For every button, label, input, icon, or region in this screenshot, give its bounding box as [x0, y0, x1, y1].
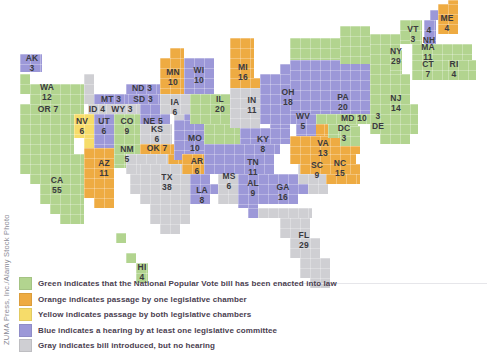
legend-label: Green indicates that the National Popula… [38, 279, 337, 288]
state-label-sc: SC9 [311, 160, 323, 180]
state-label-ks: KS6 [151, 124, 163, 144]
state-label-ga: GA16 [276, 182, 289, 202]
legend: Green indicates that the National Popula… [19, 276, 349, 354]
legend-label: Orange indicates passage by one legislat… [38, 295, 247, 304]
state-label-id: ID 4 [89, 104, 105, 114]
gray-swatch-icon [19, 339, 32, 352]
legend-item-yellow: Yellow indicates passage by both legisla… [19, 307, 349, 323]
state-tile [380, 134, 410, 144]
state-tile [150, 204, 190, 224]
state-label-wi: WI10 [194, 65, 205, 85]
state-tile [84, 148, 114, 158]
state-label-or: OR 7 [38, 104, 59, 114]
state-tile [314, 124, 328, 136]
state-label-tn: TN11 [247, 157, 259, 177]
legend-label: Blue indicates a hearing by at least one… [38, 326, 277, 335]
state-label-mi: MI16 [238, 62, 248, 82]
state-label-ca: CA55 [51, 175, 64, 195]
green-swatch-icon [19, 277, 32, 290]
state-tile [370, 34, 390, 74]
photo-credit: ZUMA Press, Inc./Alamy Stock Photo [2, 214, 11, 345]
state-tile [298, 184, 308, 194]
state-label-wa: WA12 [40, 82, 54, 102]
state-tile [448, 0, 458, 4]
state-label-md: MD 10 [341, 113, 367, 123]
state-tile [126, 253, 136, 263]
state-label-vt: VT3 [407, 24, 418, 44]
state-label-az: AZ11 [98, 158, 110, 178]
legend-label: Gray indicates bill introduced, but no h… [38, 341, 215, 350]
state-tile [20, 154, 84, 174]
state-tile [20, 74, 30, 84]
state-tile [258, 208, 312, 218]
state-label-nm: NM5 [120, 144, 134, 164]
state-label-de: 3DE [372, 111, 384, 131]
legend-item-green: Green indicates that the National Popula… [19, 276, 349, 292]
state-label-pa: PA20 [337, 92, 349, 112]
state-tile [204, 154, 274, 174]
state-label-fl: FL29 [299, 230, 310, 250]
state-tile [430, 10, 438, 20]
state-tile [290, 38, 340, 60]
state-tile [84, 74, 94, 104]
legend-item-gray: Gray indicates bill introduced, but no h… [19, 338, 349, 354]
state-tile [20, 114, 74, 154]
state-label-in: IN11 [247, 95, 256, 115]
state-tile [300, 164, 360, 174]
state-label-nv: NV6 [76, 116, 88, 136]
state-label-ak: AK3 [26, 53, 39, 73]
state-label-dc: DC3 [338, 123, 351, 143]
state-tile [50, 204, 84, 214]
state-label-wy: WY 3 [111, 104, 132, 114]
state-tile [280, 64, 290, 74]
state-tile [340, 26, 370, 64]
state-label-la: LA8 [196, 185, 208, 205]
state-label-nc: NC15 [334, 158, 347, 178]
state-label-ct: CT7 [422, 59, 434, 79]
state-label-nd: ND 3 [132, 83, 152, 93]
tile-grid-map: AK3WA12OR 7CA55NV6ID 4MT 3WY 3UT6CO9AZ11… [0, 0, 487, 300]
state-label-va: VA13 [317, 138, 329, 158]
state-label-wv: WV5 [296, 111, 310, 131]
state-label-ms: MS6 [222, 171, 235, 191]
state-tile [60, 214, 84, 224]
state-tile [160, 224, 180, 234]
state-tile [210, 184, 218, 194]
state-label-ok: OK 7 [147, 143, 168, 153]
state-label-tx: TX38 [161, 172, 172, 192]
state-label-ar: AR6 [191, 156, 204, 176]
state-label-ia: IA6 [171, 97, 180, 117]
state-tile [300, 258, 330, 278]
state-tile [248, 208, 258, 218]
state-label-il: IL20 [215, 94, 225, 114]
state-label-al: AL9 [247, 178, 259, 198]
state-tile [130, 174, 140, 194]
state-tile [170, 48, 184, 58]
state-label-co: CO9 [120, 116, 133, 136]
state-label-mo: MO10 [188, 133, 202, 153]
state-tile [30, 94, 84, 104]
state-tile [116, 233, 126, 243]
state-tile [290, 60, 370, 114]
state-label-oh: OH18 [281, 87, 294, 107]
state-label-ky: KY8 [257, 134, 269, 154]
legend-label: Yellow indicates passage by both legisla… [38, 310, 251, 319]
legend-item-orange: Orange indicates passage by one legislat… [19, 292, 349, 308]
orange-swatch-icon [19, 293, 32, 306]
legend-item-blue: Blue indicates a hearing by at least one… [19, 323, 349, 339]
state-label-ny: NY29 [390, 46, 402, 66]
state-label-nj: NJ14 [390, 93, 401, 113]
state-label-ri: RI4 [450, 59, 459, 79]
state-label-ut: UT6 [98, 116, 110, 136]
yellow-swatch-icon [19, 308, 32, 321]
state-label-mt: MT 3 [101, 94, 121, 104]
state-tile [308, 184, 328, 194]
state-label-me: ME4 [440, 13, 453, 33]
state-label-mn: MN10 [166, 67, 180, 87]
state-tile [84, 138, 94, 148]
state-tile [84, 158, 94, 198]
blue-swatch-icon [19, 324, 32, 337]
state-label-sd: SD 3 [133, 94, 153, 104]
